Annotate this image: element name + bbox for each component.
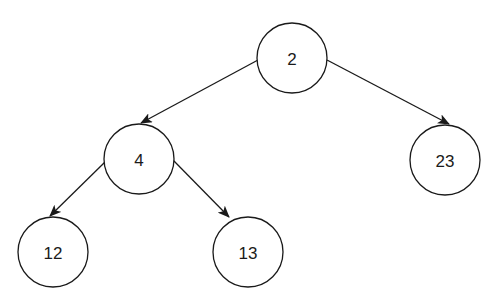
edge-4-to-13 [173,160,229,217]
node-12: 12 [18,217,88,287]
node-2: 2 [257,23,327,93]
edge-2-to-4 [141,60,258,123]
node-label: 12 [44,244,63,263]
node-13: 13 [213,217,283,287]
node-4: 4 [104,124,174,194]
node-label: 13 [239,244,258,263]
node-23: 23 [410,125,480,195]
tree-diagram: 2 4 23 12 13 [0,0,496,302]
edge-4-to-12 [50,162,105,216]
node-label: 4 [134,151,143,170]
node-label: 23 [436,152,455,171]
edge-2-to-23 [327,60,449,124]
node-label: 2 [287,50,296,69]
